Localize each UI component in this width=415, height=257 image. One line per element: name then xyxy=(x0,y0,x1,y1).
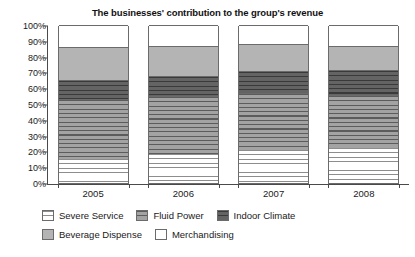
bar-segment-indoor-climate[interactable] xyxy=(149,76,218,97)
bar-group xyxy=(58,26,129,184)
x-axis-tick-mark xyxy=(328,184,329,188)
bar-segment-indoor-climate[interactable] xyxy=(59,80,128,99)
bar-segment-merchandising[interactable] xyxy=(59,25,128,47)
bar-segment-fluid-power[interactable] xyxy=(149,96,218,154)
y-axis-tick-mark xyxy=(43,136,48,137)
y-axis-tick-mark xyxy=(43,73,48,74)
legend-row: Severe ServiceFluid PowerIndoor Climate xyxy=(42,206,392,225)
bar-segment-indoor-climate[interactable] xyxy=(329,70,398,94)
y-axis-tick-mark xyxy=(43,184,48,185)
stacked-bar[interactable] xyxy=(328,26,399,184)
x-axis-tick-label: 2006 xyxy=(138,188,228,199)
legend-item-beverage-dispense[interactable]: Beverage Dispense xyxy=(42,229,142,240)
chart-legend: Severe ServiceFluid PowerIndoor ClimateB… xyxy=(42,206,392,244)
y-axis-tick-mark xyxy=(43,89,48,90)
stacked-bar[interactable] xyxy=(58,26,129,184)
legend-swatch-icon xyxy=(217,210,229,221)
y-axis-tick-mark xyxy=(43,57,48,58)
bar-segment-beverage-dispense[interactable] xyxy=(59,47,128,80)
bar-segment-beverage-dispense[interactable] xyxy=(239,44,308,71)
x-axis-tick-mark xyxy=(129,184,130,188)
bar-group xyxy=(238,26,309,184)
y-axis-tick-mark xyxy=(43,41,48,42)
legend-label: Fluid Power xyxy=(153,210,203,221)
legend-item-fluid-power[interactable]: Fluid Power xyxy=(136,210,203,221)
legend-swatch-icon xyxy=(136,210,148,221)
stacked-bar[interactable] xyxy=(148,26,219,184)
bar-segment-severe-service[interactable] xyxy=(239,150,308,183)
y-axis-tick-mark xyxy=(43,26,48,27)
legend-label: Indoor Climate xyxy=(234,210,296,221)
bar-segment-beverage-dispense[interactable] xyxy=(329,46,398,70)
x-axis-tick-mark xyxy=(148,184,149,188)
chart-title: The businesses' contribution to the grou… xyxy=(0,7,415,18)
legend-item-severe-service[interactable]: Severe Service xyxy=(42,210,123,221)
x-axis-line xyxy=(47,184,409,185)
x-axis-tick-mark xyxy=(219,184,220,188)
y-axis-tick-mark xyxy=(43,105,48,106)
legend-swatch-icon xyxy=(155,229,167,240)
stacked-bar[interactable] xyxy=(238,26,309,184)
legend-item-indoor-climate[interactable]: Indoor Climate xyxy=(217,210,296,221)
x-axis-tick-mark xyxy=(58,184,59,188)
stacked-bar-chart: The businesses' contribution to the grou… xyxy=(0,0,415,257)
x-axis-tick-label: 2008 xyxy=(319,188,409,199)
x-axis-tick-mark xyxy=(309,184,310,188)
x-axis-tick-label: 2007 xyxy=(229,188,319,199)
bar-segment-indoor-climate[interactable] xyxy=(239,71,308,93)
bar-segment-beverage-dispense[interactable] xyxy=(149,46,218,76)
y-axis-tick-mark xyxy=(43,152,48,153)
bar-segment-severe-service[interactable] xyxy=(59,159,128,183)
bar-segment-severe-service[interactable] xyxy=(329,148,398,183)
bar-segment-fluid-power[interactable] xyxy=(329,95,398,149)
bar-group xyxy=(328,26,399,184)
legend-item-merchandising[interactable]: Merchandising xyxy=(155,229,234,240)
x-axis-tick-mark xyxy=(399,184,400,188)
bar-segment-fluid-power[interactable] xyxy=(59,99,128,159)
x-axis-tick-mark xyxy=(238,184,239,188)
legend-label: Merchandising xyxy=(172,229,234,240)
x-axis-tick-label: 2005 xyxy=(48,188,138,199)
y-axis-tick-labels: 0%10%20%30%40%50%60%70%80%90%100% xyxy=(6,26,46,184)
bar-segment-merchandising[interactable] xyxy=(329,25,398,46)
bar-segment-merchandising[interactable] xyxy=(239,25,308,44)
legend-label: Beverage Dispense xyxy=(59,229,142,240)
legend-label: Severe Service xyxy=(59,210,123,221)
bar-group xyxy=(148,26,219,184)
bar-segment-fluid-power[interactable] xyxy=(239,93,308,150)
y-axis-tick-mark xyxy=(43,168,48,169)
legend-swatch-icon xyxy=(42,229,54,240)
y-axis-tick-mark xyxy=(43,120,48,121)
bar-segment-severe-service[interactable] xyxy=(149,154,218,183)
plot-area xyxy=(48,26,409,184)
legend-swatch-icon xyxy=(42,210,54,221)
legend-row: Beverage DispenseMerchandising xyxy=(42,225,392,244)
bar-segment-merchandising[interactable] xyxy=(149,25,218,46)
